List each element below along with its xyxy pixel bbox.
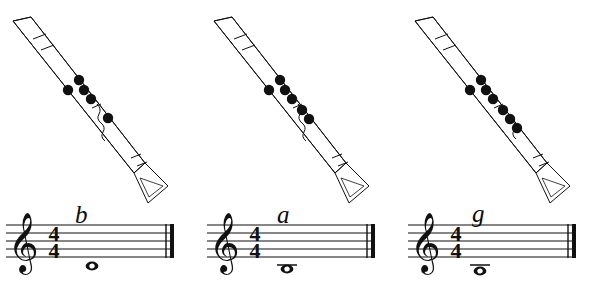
hole-thumb bbox=[264, 85, 274, 95]
note-letter-a: a bbox=[277, 202, 290, 227]
whole-note bbox=[281, 265, 294, 274]
whole-note bbox=[86, 262, 99, 271]
fingering-panel-g: 𝄞 4 4 g bbox=[402, 0, 603, 294]
hole-left-3 bbox=[488, 94, 498, 104]
whole-note bbox=[474, 267, 487, 276]
hole-right-1 bbox=[297, 105, 307, 115]
hole-right-2 bbox=[505, 114, 515, 124]
clarinet-illustration-g bbox=[402, 0, 603, 210]
time-signature-bottom: 4 bbox=[451, 238, 462, 263]
svg-text:𝄞: 𝄞 bbox=[410, 212, 441, 275]
music-staff-a: 𝄞 4 4 a bbox=[201, 205, 402, 294]
hole-right-3 bbox=[512, 123, 522, 133]
fingering-panel-b: 𝄞 4 4 b bbox=[0, 0, 201, 294]
hole-left-1 bbox=[275, 75, 285, 85]
hole-thumb bbox=[465, 85, 475, 95]
fingering-panel-a: 𝄞 4 4 a bbox=[201, 0, 402, 294]
time-signature-bottom: 4 bbox=[250, 238, 261, 263]
note-letter-b: b bbox=[75, 202, 88, 227]
fingering-chart-figure: 𝄞 4 4 b bbox=[0, 0, 603, 294]
clarinet-illustration-a bbox=[201, 0, 402, 210]
hole-left-3 bbox=[86, 94, 96, 104]
hole-left-1 bbox=[74, 75, 84, 85]
music-staff-g: 𝄞 4 4 g bbox=[402, 205, 603, 294]
clarinet-illustration-b bbox=[0, 0, 201, 210]
svg-text:𝄞: 𝄞 bbox=[209, 212, 240, 275]
hole-right-1 bbox=[103, 113, 113, 123]
hole-left-2 bbox=[481, 85, 491, 95]
hole-left-3 bbox=[287, 94, 297, 104]
hole-left-1 bbox=[476, 75, 486, 85]
music-staff-b: 𝄞 4 4 b bbox=[0, 205, 201, 294]
hole-left-2 bbox=[79, 85, 89, 95]
note-letter-g: g bbox=[472, 201, 485, 226]
hole-thumb bbox=[63, 85, 73, 95]
hole-left-2 bbox=[280, 85, 290, 95]
svg-text:𝄞: 𝄞 bbox=[8, 212, 39, 275]
hole-right-1 bbox=[498, 105, 508, 115]
time-signature-bottom: 4 bbox=[49, 238, 60, 263]
hole-right-2 bbox=[304, 114, 314, 124]
